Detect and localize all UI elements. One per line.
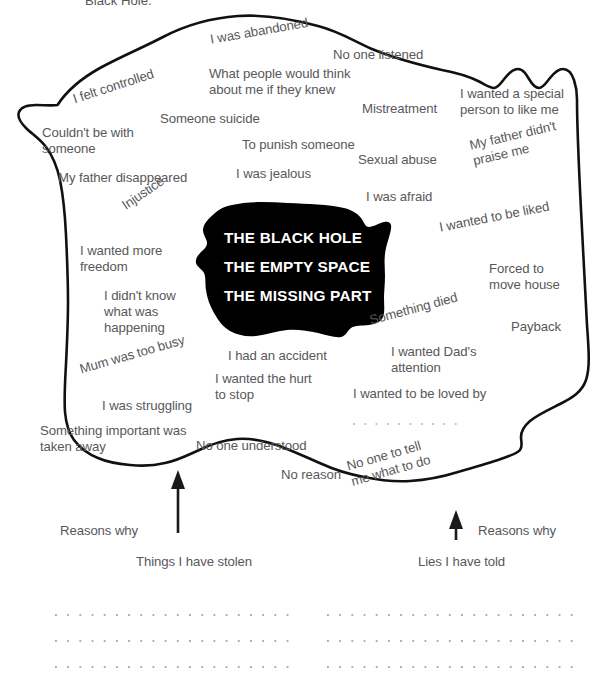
reason-label: No one understood [196, 438, 336, 455]
reason-label: Someone suicide [160, 111, 275, 128]
reason-label: I wanted Dad's attention [391, 344, 496, 376]
right-reasons-why-label: Reasons why [478, 523, 556, 540]
inside-dotted-line [353, 423, 465, 426]
reason-label: To punish someone [242, 137, 372, 154]
reason-label: I was struggling [102, 398, 207, 415]
reason-label: My father disappeared [58, 170, 213, 187]
left-arrow-icon [171, 470, 185, 533]
reason-label: I was jealous [236, 166, 326, 183]
right-arrow-icon [449, 510, 463, 540]
writing-line-left [55, 640, 291, 643]
things-i-have-stolen-label: Things I have stolen [136, 554, 252, 571]
writing-line-right [327, 614, 575, 617]
reason-label: I didn't know what was happening [104, 288, 204, 336]
reason-label: I wanted more freedom [80, 243, 185, 275]
reason-label: I had an accident [228, 348, 343, 365]
reason-label: I wanted to be loved by [353, 386, 513, 403]
writing-line-right [327, 640, 575, 643]
reason-label: Sexual abuse [358, 152, 453, 169]
reason-label: Mistreatment [362, 101, 457, 118]
reason-label: I was afraid [366, 189, 446, 206]
reason-label: No reason [281, 467, 356, 484]
writing-line-left [55, 614, 291, 617]
left-reasons-why-label: Reasons why [60, 523, 138, 540]
reason-label: Something important was taken away [40, 423, 210, 455]
writing-line-left [55, 666, 291, 669]
reason-label: Payback [511, 319, 576, 336]
reason-label: No one listened [333, 47, 443, 64]
worksheet-page: Black Hole. THE BLACK HOLE THE EMPTY SPA… [0, 0, 607, 678]
reason-label: Forced to move house [489, 261, 589, 293]
reason-label: I wanted the hurt to stop [215, 371, 335, 403]
reason-label: Couldn't be with someone [42, 125, 162, 157]
reason-label: What people would think about me if they… [209, 66, 374, 98]
lies-i-have-told-label: Lies I have told [418, 554, 505, 571]
writing-line-right [327, 666, 575, 669]
